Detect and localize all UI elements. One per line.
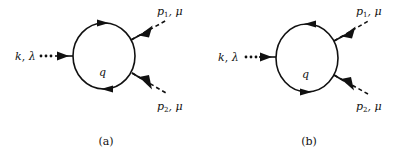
external-arrow-p1-b-icon [342, 27, 356, 39]
external-label-p1-b: p1, μ [356, 5, 382, 19]
feynman-diagram-figure: k, λ q p1, μ p2, μ (a) [0, 0, 399, 159]
caption-a: (a) [98, 135, 113, 148]
external-label-p1-a: p1, μ [157, 5, 183, 19]
incoming-arrow-a-icon [57, 52, 69, 61]
fermion-loop-a [73, 23, 135, 89]
incoming-line-a [40, 52, 73, 61]
panel-b: k, λ q p1, μ p2, μ (b) [218, 5, 382, 148]
incoming-label-a: k, λ [15, 50, 36, 63]
external-line-p2-b [334, 75, 368, 94]
loop-label-b: q [302, 68, 309, 81]
loop-label-a: q [99, 66, 106, 79]
incoming-line-b [245, 53, 276, 62]
loop-arrow-top-a-icon [97, 20, 109, 27]
loop-arrow-bottom-b-icon [300, 89, 312, 96]
external-arrow-p2-b-icon [341, 77, 354, 91]
external-label-p2-a: p2, μ [157, 100, 183, 114]
loop-arrow-top-b-icon [304, 21, 316, 28]
external-label-p2-b: p2, μ [356, 100, 382, 114]
external-arrow-p1-a-icon [139, 26, 153, 38]
external-line-p1-b [334, 20, 370, 41]
incoming-arrow-b-icon [260, 53, 272, 62]
caption-b: (b) [301, 135, 317, 148]
loop-arrow-bottom-a-icon [101, 86, 113, 93]
external-arrow-p2-a-icon [139, 75, 152, 90]
panel-a: k, λ q p1, μ p2, μ (a) [15, 5, 183, 148]
external-line-p1-a [131, 20, 167, 40]
fermion-loop-b [276, 24, 338, 92]
incoming-label-b: k, λ [218, 51, 239, 64]
external-line-p2-a [132, 73, 166, 93]
